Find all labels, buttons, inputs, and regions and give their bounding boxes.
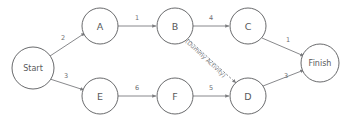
nodes-layer: StartABCEFDFinish [12, 8, 339, 114]
edge-weight-start-a: 2 [61, 34, 65, 42]
edge-start-e [50, 79, 84, 90]
node-label-d: D [244, 91, 251, 102]
node-e[interactable]: E [82, 78, 118, 114]
edge-start-a [50, 33, 85, 56]
network-diagram: 23146513 (Dummy Activity) StartABCEFDFin… [0, 0, 355, 123]
node-b[interactable]: B [157, 8, 193, 44]
node-c[interactable]: C [230, 8, 266, 44]
network-diagram-canvas: 23146513 (Dummy Activity) StartABCEFDFin… [0, 0, 355, 123]
node-f[interactable]: F [157, 78, 193, 114]
edge-weight-start-e: 3 [64, 72, 68, 80]
node-a[interactable]: A [82, 8, 118, 44]
edge-weight-c-finish: 1 [286, 36, 290, 44]
node-start[interactable]: Start [12, 47, 54, 89]
node-label-f: F [172, 91, 177, 102]
edge-weight-d-finish: 3 [284, 72, 288, 80]
node-label-finish: Finish [309, 59, 332, 68]
edge-weight-f-d: 5 [209, 84, 213, 92]
node-label-b: B [172, 21, 179, 32]
edge-c-finish [262, 38, 304, 56]
node-label-e: E [97, 91, 103, 102]
node-d[interactable]: D [230, 78, 266, 114]
node-label-start: Start [23, 64, 43, 73]
edge-weight-b-c: 4 [209, 14, 213, 22]
node-finish[interactable]: Finish [301, 44, 339, 82]
edge-weight-e-f: 6 [135, 84, 139, 92]
dummy-activity-label: (Dummy Activity) [184, 37, 228, 79]
annotations-layer: (Dummy Activity) [184, 37, 228, 79]
node-label-a: A [97, 21, 104, 32]
node-label-c: C [245, 21, 252, 32]
edge-weight-a-b: 1 [135, 14, 139, 22]
